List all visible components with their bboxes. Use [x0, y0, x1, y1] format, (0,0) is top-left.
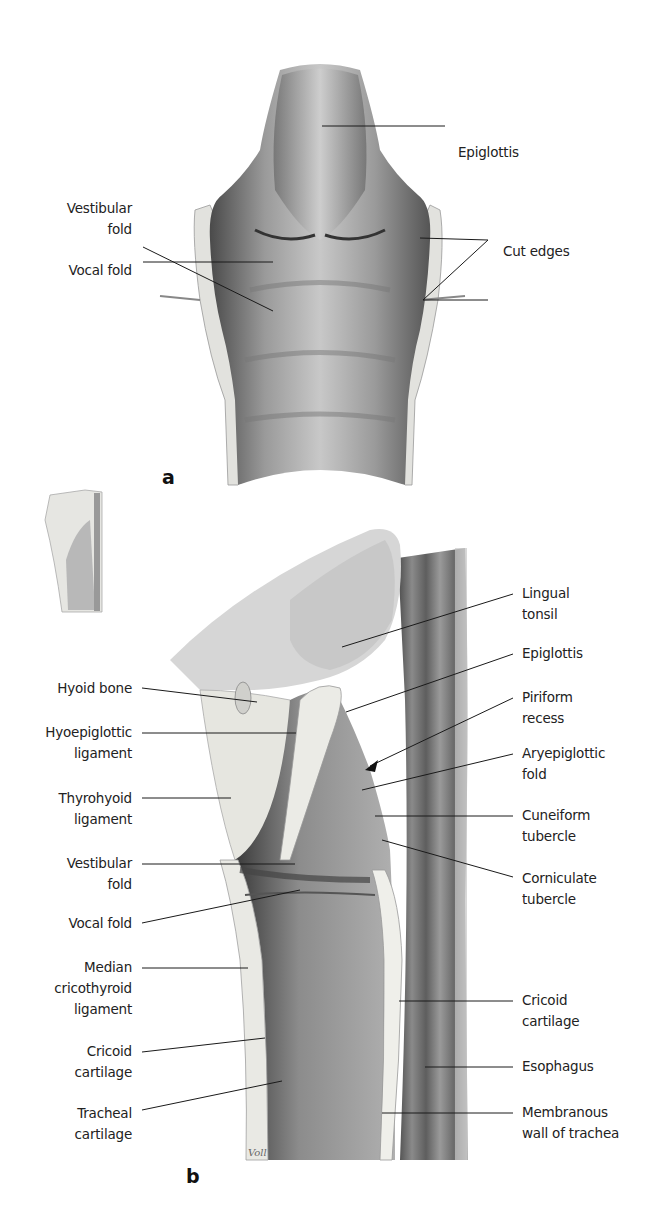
- artist-signature: Voll: [248, 1147, 267, 1158]
- label-b-vocal-fold: Vocal fold: [68, 913, 132, 934]
- panel-label-b: b: [186, 1165, 200, 1187]
- label-b-tracheal-cartilage: Tracheal cartilage: [75, 1103, 132, 1145]
- label-b-cricoid-cartilage-left: Cricoid cartilage: [75, 1041, 132, 1083]
- label-a-vocal-fold: Vocal fold: [68, 260, 132, 281]
- label-b-lingual-tonsil: Lingual tonsil: [522, 583, 570, 625]
- orientation-thumbnail: [45, 490, 102, 612]
- panel-b-drawing: [170, 529, 468, 1160]
- label-b-cricoid-cartilage-right: Cricoid cartilage: [522, 990, 579, 1032]
- label-b-corniculate-tubercle: Corniculate tubercle: [522, 868, 597, 910]
- label-b-vestibular-fold: Vestibular fold: [67, 853, 132, 895]
- label-b-hyoepiglottic-ligament: Hyoepiglottic ligament: [45, 722, 132, 764]
- label-b-median-cricothyroid-ligament: Median cricothyroid ligament: [54, 957, 132, 1020]
- label-b-thyrohyoid-ligament: Thyrohyoid ligament: [59, 788, 132, 830]
- label-b-cuneiform-tubercle: Cuneiform tubercle: [522, 805, 590, 847]
- label-b-esophagus: Esophagus: [522, 1056, 594, 1077]
- label-b-epiglottis: Epiglottis: [522, 643, 583, 664]
- label-a-vestibular-fold: Vestibular fold: [67, 198, 132, 240]
- label-b-piriform-recess: Piriform recess: [522, 687, 573, 729]
- label-a-cut-edges: Cut edges: [503, 241, 570, 262]
- label-b-aryepiglottic-fold: Aryepiglottic fold: [522, 743, 605, 785]
- label-b-membranous-wall-of-trachea: Membranous wall of trachea: [522, 1102, 619, 1144]
- panel-label-a: a: [162, 466, 175, 488]
- label-b-hyoid-bone: Hyoid bone: [57, 678, 132, 699]
- label-a-epiglottis: Epiglottis: [458, 142, 519, 163]
